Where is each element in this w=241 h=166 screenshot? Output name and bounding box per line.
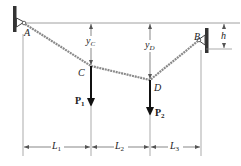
label-p2: P2 <box>155 108 165 120</box>
cable-diagram: A B C D yC yD h P1 P2 L1 L2 L3 <box>0 0 241 166</box>
label-yc: yC <box>85 36 96 48</box>
load-arrow-p2 <box>146 80 154 116</box>
label-a: A <box>24 28 30 38</box>
label-l3: L3 <box>170 141 179 153</box>
label-d: D <box>154 83 161 93</box>
label-l2: L2 <box>115 141 124 153</box>
l1-sub: 1 <box>58 145 62 153</box>
l3-sub: 3 <box>176 145 180 153</box>
l2-sub: 2 <box>121 145 125 153</box>
label-yd: yD <box>144 40 156 52</box>
p1-sub: 1 <box>81 100 85 108</box>
load-arrow-p1 <box>87 66 95 107</box>
yd-sub: D <box>149 44 154 52</box>
extension-lines <box>23 34 232 156</box>
label-b: B <box>194 32 200 42</box>
label-l1: L1 <box>52 141 61 153</box>
label-c: C <box>78 68 85 78</box>
label-h: h <box>221 31 226 41</box>
cable <box>25 24 198 80</box>
yc-sub: C <box>90 40 95 48</box>
label-p1: P1 <box>75 96 85 108</box>
p2-sub: 2 <box>161 112 165 120</box>
